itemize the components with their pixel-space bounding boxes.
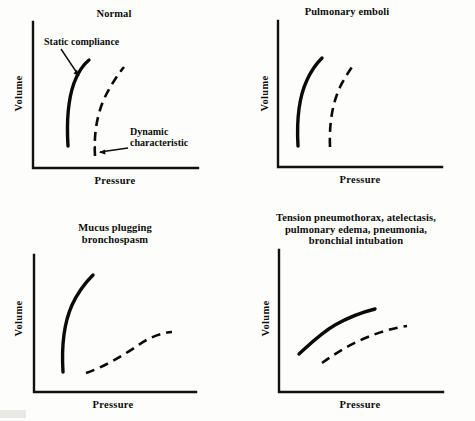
panel-tension-pneumothorax-xlabel: Pressure: [315, 399, 405, 410]
scan-edge-artifact: [0, 410, 26, 418]
panel-pulmonary-emboli: Pulmonary emboli Volume Pressure: [237, 0, 475, 205]
panel-tension-pneumothorax-axes: [279, 250, 443, 392]
panel-normal-curve-dynamic: [95, 67, 124, 156]
annotation-dynamic-characteristic: Dynamic characteristic: [130, 126, 230, 148]
panel-mucus-plugging-ylabel: Volume: [13, 289, 24, 349]
panel-normal-dynamic-arrowhead: [99, 150, 106, 155]
panel-tension-pneumothorax: Tension pneumothorax, atelectasis, pulmo…: [237, 205, 475, 421]
panel-normal-curve-static: [67, 60, 89, 146]
panel-mucus-plugging-curve-static: [63, 275, 93, 372]
panel-mucus-plugging: Mucus plugging bronchospasm Volume Press…: [0, 205, 237, 421]
panel-tension-pneumothorax-curve-dynamic: [322, 326, 407, 363]
panel-mucus-plugging-xlabel: Pressure: [68, 399, 158, 410]
panel-mucus-plugging-axes: [34, 255, 196, 392]
annotation-static-compliance: Static compliance: [44, 36, 164, 47]
panel-tension-pneumothorax-curve-static: [299, 309, 375, 354]
panel-pulmonary-emboli-xlabel: Pressure: [315, 174, 405, 185]
panel-normal-ylabel: Volume: [13, 64, 24, 124]
panel-tension-pneumothorax-ylabel: Volume: [260, 289, 271, 349]
panel-pulmonary-emboli-curve-dynamic: [330, 63, 355, 147]
panel-normal: Normal Static compliance Dynamic charact…: [0, 0, 237, 205]
panel-mucus-plugging-plot: [0, 205, 237, 421]
panel-mucus-plugging-curve-dynamic: [86, 332, 172, 373]
panel-pulmonary-emboli-curve-static: [298, 58, 322, 146]
panel-tension-pneumothorax-plot: [237, 205, 475, 421]
pressure-volume-curves-figure: Normal Static compliance Dynamic charact…: [0, 0, 475, 421]
panel-normal-xlabel: Pressure: [70, 175, 160, 186]
panel-pulmonary-emboli-ylabel: Volume: [259, 64, 270, 124]
